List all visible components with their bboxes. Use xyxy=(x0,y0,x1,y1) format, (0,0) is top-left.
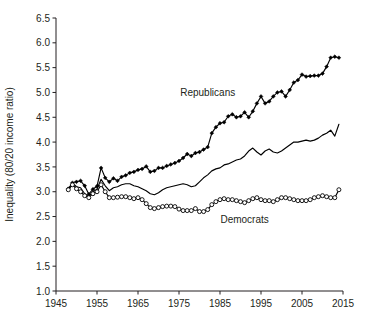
marker-point-democrats xyxy=(136,196,140,200)
marker-point-democrats xyxy=(214,200,218,204)
chart-figure: 1.01.52.02.53.03.54.04.55.05.56.06.5 194… xyxy=(0,0,365,327)
marker-point-democrats xyxy=(325,195,329,199)
marker-point-democrats xyxy=(99,183,103,187)
marker-point-democrats xyxy=(95,190,99,194)
y-tick-label: 6.0 xyxy=(36,37,50,48)
marker-point-democrats xyxy=(116,195,120,199)
marker-point-democrats xyxy=(247,199,251,203)
marker-point-democrats xyxy=(111,196,115,200)
series-line-all xyxy=(68,124,339,196)
marker-point-democrats xyxy=(75,187,79,191)
x-axis-ticks: 19451955196519751985199520052015 xyxy=(45,291,355,309)
marker-point-republicans xyxy=(169,163,173,167)
x-tick-label: 1995 xyxy=(250,298,273,309)
marker-point-democrats xyxy=(288,197,292,201)
y-axis-title: Inequality (80/20 income ratio) xyxy=(4,87,15,222)
marker-point-democrats xyxy=(140,198,144,202)
marker-point-democrats xyxy=(255,196,259,200)
marker-point-democrats xyxy=(312,196,316,200)
marker-point-democrats xyxy=(161,205,165,209)
y-tick-label: 5.0 xyxy=(36,87,50,98)
marker-point-republicans xyxy=(136,168,140,172)
marker-point-republicans xyxy=(161,166,165,170)
marker-point-democrats xyxy=(181,209,185,213)
marker-point-democrats xyxy=(148,206,152,210)
marker-point-republicans xyxy=(132,170,136,174)
y-tick-label: 2.5 xyxy=(36,211,50,222)
data-markers xyxy=(66,55,341,214)
marker-point-democrats xyxy=(91,192,95,196)
marker-point-democrats xyxy=(284,196,288,200)
marker-point-democrats xyxy=(321,194,325,198)
marker-point-republicans xyxy=(75,180,79,184)
marker-point-democrats xyxy=(173,205,177,209)
y-tick-label: 6.5 xyxy=(36,13,50,24)
marker-point-republicans xyxy=(173,161,177,165)
y-tick-label: 3.5 xyxy=(36,162,50,173)
marker-point-democrats xyxy=(222,197,226,201)
marker-point-democrats xyxy=(66,188,70,192)
y-tick-label: 1.0 xyxy=(36,286,50,297)
marker-point-democrats xyxy=(83,194,87,198)
marker-point-democrats xyxy=(210,203,214,207)
marker-point-republicans xyxy=(317,74,321,78)
y-axis-ticks: 1.01.52.02.53.03.54.04.55.05.56.06.5 xyxy=(36,13,56,297)
marker-point-democrats xyxy=(226,198,230,202)
marker-point-democrats xyxy=(239,200,243,204)
y-tick-label: 4.5 xyxy=(36,112,50,123)
marker-point-democrats xyxy=(275,198,279,202)
marker-point-democrats xyxy=(107,196,111,200)
marker-point-democrats xyxy=(177,207,181,211)
marker-point-democrats xyxy=(296,199,300,203)
marker-point-democrats xyxy=(234,199,238,203)
marker-point-republicans xyxy=(337,56,341,60)
marker-point-democrats xyxy=(198,210,202,214)
marker-point-democrats xyxy=(152,207,156,211)
marker-point-democrats xyxy=(206,208,210,212)
series-annotations: RepublicansDemocrats xyxy=(180,87,269,225)
x-tick-label: 1985 xyxy=(209,298,232,309)
marker-point-republicans xyxy=(333,55,337,59)
marker-point-democrats xyxy=(165,204,169,208)
y-axis-title-text: Inequality (80/20 income ratio) xyxy=(4,87,15,222)
y-tick-label: 5.5 xyxy=(36,62,50,73)
marker-point-democrats xyxy=(218,198,222,202)
marker-point-democrats xyxy=(304,199,308,203)
marker-point-democrats xyxy=(251,197,255,201)
axis-spines xyxy=(56,18,343,291)
marker-point-democrats xyxy=(333,196,337,200)
marker-point-democrats xyxy=(87,196,91,200)
marker-point-republicans xyxy=(165,164,169,168)
x-tick-label: 1955 xyxy=(86,298,109,309)
x-tick-label: 1975 xyxy=(168,298,191,309)
marker-point-republicans xyxy=(308,74,312,78)
marker-point-democrats xyxy=(185,209,189,213)
marker-point-democrats xyxy=(267,199,271,203)
y-tick-label: 1.5 xyxy=(36,261,50,272)
caption-sliver xyxy=(0,318,365,327)
marker-point-democrats xyxy=(243,201,247,205)
axes xyxy=(56,18,343,291)
y-tick-label: 2.0 xyxy=(36,236,50,247)
marker-point-democrats xyxy=(230,198,234,202)
marker-point-democrats xyxy=(132,197,136,201)
marker-point-democrats xyxy=(263,199,267,203)
marker-point-democrats xyxy=(202,210,206,214)
marker-point-democrats xyxy=(337,188,341,192)
marker-point-democrats xyxy=(308,198,312,202)
marker-point-democrats xyxy=(157,206,161,210)
annotation-democrats: Democrats xyxy=(220,214,268,225)
marker-point-democrats xyxy=(70,183,74,187)
marker-point-democrats xyxy=(120,195,124,199)
y-tick-label: 4.0 xyxy=(36,137,50,148)
marker-point-democrats xyxy=(169,204,173,208)
marker-point-democrats xyxy=(103,190,107,194)
series-line-republicans xyxy=(68,57,339,194)
marker-point-republicans xyxy=(312,74,316,78)
marker-point-republicans xyxy=(329,56,333,60)
marker-point-democrats xyxy=(329,196,333,200)
marker-point-republicans xyxy=(99,166,103,170)
marker-point-democrats xyxy=(193,207,197,211)
x-tick-label: 1965 xyxy=(127,298,150,309)
marker-point-democrats xyxy=(124,195,128,199)
